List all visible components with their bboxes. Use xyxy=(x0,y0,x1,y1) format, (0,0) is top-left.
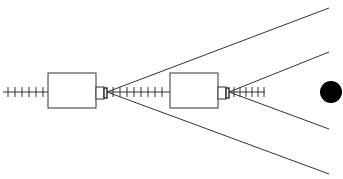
box-2 xyxy=(170,73,218,108)
nozzle-1-lens xyxy=(104,88,107,98)
target-dot-icon xyxy=(320,81,342,103)
cone-2-upper-edge xyxy=(229,52,329,92)
nozzle-1 xyxy=(96,87,104,99)
box-1 xyxy=(48,73,96,108)
two-stage-projection-diagram xyxy=(0,0,343,179)
nozzle-2-lens xyxy=(226,88,229,98)
cone-2-lower-edge xyxy=(229,92,329,129)
nozzle-2 xyxy=(218,87,226,99)
